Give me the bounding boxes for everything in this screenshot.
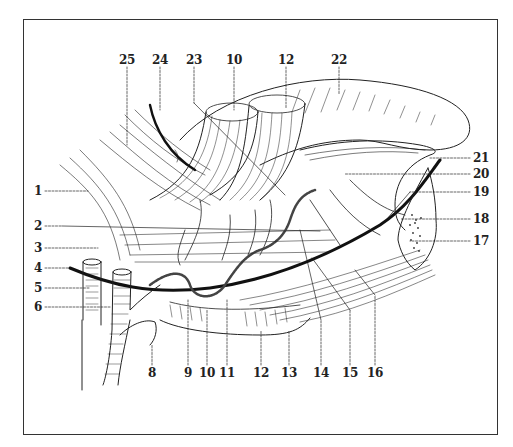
label-1: 1 [34, 185, 42, 197]
styloglossus-fibers [60, 110, 220, 260]
label-11: 11 [219, 367, 235, 379]
sublingual-gland [160, 318, 310, 335]
label-22: 22 [331, 54, 347, 66]
lingual-artery [150, 190, 315, 296]
label-12-top: 12 [278, 54, 294, 66]
label-14: 14 [313, 367, 329, 379]
label-8: 8 [148, 367, 156, 379]
label-24: 24 [152, 54, 168, 66]
label-17: 17 [473, 235, 489, 247]
anatomical-figure: 25 24 23 10 12 22 1 2 3 4 5 6 8 9 10 11 … [0, 0, 513, 447]
label-4: 4 [34, 262, 42, 274]
label-18: 18 [473, 213, 489, 225]
label-10-bottom: 10 [199, 367, 215, 379]
nerve-branches [178, 180, 405, 265]
label-2: 2 [34, 220, 42, 232]
label-23: 23 [186, 54, 202, 66]
label-9: 9 [184, 367, 192, 379]
label-3: 3 [34, 242, 42, 254]
label-10-top: 10 [226, 54, 242, 66]
muscle-cut-12 [249, 95, 305, 113]
label-13: 13 [281, 367, 297, 379]
label-25: 25 [119, 54, 135, 66]
label-16: 16 [367, 367, 383, 379]
label-6: 6 [34, 301, 42, 313]
label-12-bottom: 12 [253, 367, 269, 379]
hypoglossal-nerve [70, 160, 440, 290]
lingual-nerve-upper [150, 105, 195, 170]
label-19: 19 [473, 186, 489, 198]
label-15: 15 [342, 367, 358, 379]
tongue-underside [300, 141, 435, 230]
label-21: 21 [473, 152, 489, 164]
bone-stippling [409, 214, 422, 252]
label-5: 5 [34, 282, 42, 294]
label-20: 20 [473, 168, 489, 180]
